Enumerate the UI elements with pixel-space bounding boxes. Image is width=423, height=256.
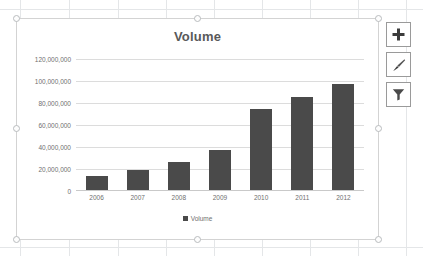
plus-icon xyxy=(391,27,406,42)
legend-swatch-volume xyxy=(183,216,188,221)
bar-slot-2006 xyxy=(76,59,117,191)
category-axis-tick-2008: 2008 xyxy=(158,194,199,201)
bar-2012[interactable] xyxy=(332,84,354,191)
bar-2006[interactable] xyxy=(86,176,108,191)
bar-slot-2008 xyxy=(158,59,199,191)
value-axis-tick-120000000: 120,000,000 xyxy=(35,56,71,63)
value-axis-tick-80000000: 80,000,000 xyxy=(38,100,71,107)
bar-2011[interactable] xyxy=(291,97,313,191)
category-axis-labels[interactable]: 2006200720082009201020112012 xyxy=(76,194,364,201)
resize-handle-top-right[interactable] xyxy=(375,15,382,22)
category-axis-line xyxy=(76,190,364,191)
worksheet-row-gridline-0 xyxy=(0,9,423,10)
resize-handle-middle-left[interactable] xyxy=(13,125,20,132)
value-axis-tick-60000000: 60,000,000 xyxy=(38,122,71,129)
paintbrush-icon xyxy=(391,57,407,73)
resize-handle-bottom-center[interactable] xyxy=(194,236,201,243)
value-axis-tick-20000000: 20,000,000 xyxy=(38,166,71,173)
category-axis-tick-2011: 2011 xyxy=(282,194,323,201)
plot-area[interactable]: 020,000,00040,000,00060,000,00080,000,00… xyxy=(76,59,364,191)
category-axis-tick-2007: 2007 xyxy=(117,194,158,201)
chart-elements-button[interactable] xyxy=(386,22,411,47)
chart-tools-panel[interactable] xyxy=(386,22,411,107)
bar-slot-2010 xyxy=(241,59,282,191)
category-axis-tick-2009: 2009 xyxy=(199,194,240,201)
category-axis-tick-2006: 2006 xyxy=(76,194,117,201)
bar-2010[interactable] xyxy=(250,109,272,192)
value-axis-tick-40000000: 40,000,000 xyxy=(38,144,71,151)
bar-slot-2007 xyxy=(117,59,158,191)
chart-title[interactable]: Volume xyxy=(17,29,378,44)
category-axis-tick-2012: 2012 xyxy=(323,194,364,201)
chart-filters-button[interactable] xyxy=(386,82,411,107)
excel-worksheet-with-chart: Volume 020,000,00040,000,00060,000,00080… xyxy=(0,0,423,256)
chart-styles-button[interactable] xyxy=(386,52,411,77)
bar-2008[interactable] xyxy=(168,162,190,191)
value-axis-tick-100000000: 100,000,000 xyxy=(35,78,71,85)
bar-slot-2009 xyxy=(199,59,240,191)
value-axis-tick-0: 0 xyxy=(67,188,71,195)
bar-slot-2011 xyxy=(282,59,323,191)
bar-2007[interactable] xyxy=(127,170,149,191)
resize-handle-top-center[interactable] xyxy=(194,15,201,22)
resize-handle-bottom-left[interactable] xyxy=(13,236,20,243)
chart-object[interactable]: Volume 020,000,00040,000,00060,000,00080… xyxy=(16,18,379,240)
resize-handle-middle-right[interactable] xyxy=(375,125,382,132)
legend-label-volume: Volume xyxy=(191,215,213,222)
funnel-icon xyxy=(391,87,406,102)
bar-slot-2012 xyxy=(323,59,364,191)
chart-legend[interactable]: Volume xyxy=(17,215,378,222)
worksheet-row-gridline-1 xyxy=(0,247,423,248)
bar-series-volume[interactable] xyxy=(76,59,364,191)
resize-handle-bottom-right[interactable] xyxy=(375,236,382,243)
bar-2009[interactable] xyxy=(209,150,231,191)
category-axis-tick-2010: 2010 xyxy=(241,194,282,201)
resize-handle-top-left[interactable] xyxy=(13,15,20,22)
